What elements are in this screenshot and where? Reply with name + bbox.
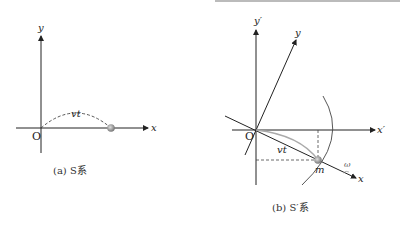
diagram-canvas xyxy=(0,0,400,227)
omega-label: ω xyxy=(344,161,351,169)
origin-label-a: O xyxy=(32,131,41,142)
x-prime-axis-label: x′ xyxy=(377,125,385,135)
y-axis-label-a: y xyxy=(38,23,44,33)
caption-a: (a) S系 xyxy=(53,166,87,176)
x-axis-rotated xyxy=(225,116,356,178)
ball-m xyxy=(314,156,322,164)
origin-label-b: O xyxy=(245,131,254,142)
panel-b xyxy=(225,30,375,185)
segment-label-vt-b: vt xyxy=(277,145,287,155)
y-prime-axis-label: y′ xyxy=(254,16,262,26)
caption-b: (b) S′系 xyxy=(272,203,309,213)
mass-label-m: m xyxy=(315,165,324,175)
x-axis-label-a: x xyxy=(151,123,157,133)
y-axis-label-rotated: y xyxy=(295,28,301,38)
top-edge-bar xyxy=(215,0,400,2)
ball-a xyxy=(107,124,115,132)
arc-label-vt-a: vt xyxy=(71,109,81,119)
x-axis-label-rotated: x xyxy=(358,174,364,184)
